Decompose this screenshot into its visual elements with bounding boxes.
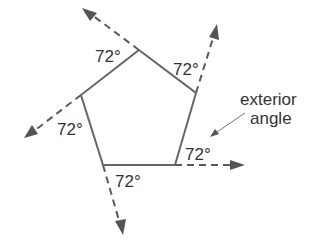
- arrowhead-upper-left-icon: [24, 125, 38, 138]
- callout-line-1: exterior: [240, 90, 297, 109]
- callout-line-2: angle: [250, 109, 292, 128]
- angle-label-upper-left: 72°: [57, 120, 83, 139]
- arrowhead-top-icon: [82, 8, 97, 21]
- angle-label-upper-right: 72°: [173, 60, 199, 79]
- angle-label-top: 72°: [95, 47, 121, 66]
- extension-top: [92, 15, 139, 50]
- arrowhead-lower-left-icon: [115, 219, 126, 235]
- callout-pointer-arrow-icon: [210, 129, 219, 137]
- arrowhead-lower-right-icon: [230, 160, 245, 170]
- callout-pointer-line: [214, 113, 245, 134]
- angle-label-lower-left: 72°: [115, 172, 141, 191]
- exterior-angle-callout: exterior angle: [210, 90, 297, 137]
- arrowhead-upper-right-icon: [209, 24, 219, 40]
- pentagon-exterior-angles-diagram: 72° 72° 72° 72° 72° exterior angle: [0, 0, 315, 247]
- angle-label-lower-right: 72°: [185, 145, 211, 164]
